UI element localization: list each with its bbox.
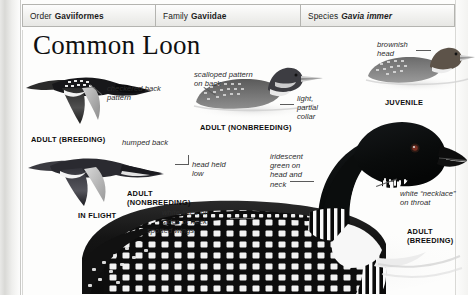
annotation-checkered-back: checkered back pattern (107, 84, 177, 102)
page-rule-left (22, 30, 23, 295)
caption-in-flight: IN FLIGHT (78, 212, 148, 221)
annotation-white-necklace: white “necklace” on throat (400, 189, 476, 207)
taxonomy-cell-species: Species Gavia immer (301, 5, 454, 26)
taxonomy-bar: Order Gaviiformes Family Gaviidae Specie… (22, 4, 455, 27)
annotation-white-lines-neck: white lines on sides of neck (162, 208, 234, 226)
taxonomy-cell-order: Order Gaviiformes (23, 5, 156, 26)
caption-juvenile: JUVENILE (385, 99, 445, 108)
caption-adult-breeding-flight: ADULT (BREEDING) (31, 136, 123, 145)
taxonomy-order-value: Gaviiformes (55, 11, 104, 21)
taxonomy-order-label: Order (30, 11, 52, 21)
taxonomy-family-label: Family (163, 11, 188, 21)
caption-adult-nonbreeding-flight: ADULT (NONBREEDING) (127, 190, 197, 208)
annotation-spotted-wings: spotted wings (147, 226, 217, 235)
caption-adult-breeding-large: ADULT (BREEDING) (407, 228, 475, 246)
annotation-light-partial-collar: light, partial collar (297, 94, 337, 122)
annotation-head-held-low: head held low (192, 160, 238, 178)
caption-adult-nonbreeding-swimming: ADULT (NONBREEDING) (200, 124, 324, 133)
annotation-humped-back: humped back (122, 138, 188, 147)
leader-head-held-low (175, 164, 188, 165)
annotation-iridescent-green: iridescent green on head and neck (270, 152, 324, 189)
taxonomy-species-value: Gavia immer (341, 11, 392, 21)
leader-light-collar (280, 104, 294, 105)
field-guide-page: Order Gaviiformes Family Gaviidae Specie… (22, 0, 468, 295)
annotation-scalloped-pattern: scalloped pattern on back (194, 70, 276, 88)
taxonomy-species-label: Species (308, 11, 338, 21)
taxonomy-cell-family: Family Gaviidae (156, 5, 301, 26)
page-title: Common Loon (33, 30, 201, 61)
leader-head-held-low-vert (188, 155, 189, 165)
annotation-brownish-head: brownish head (377, 40, 421, 58)
book-gutter-shading (0, 0, 22, 295)
gutter-rule (20, 0, 21, 295)
taxonomy-family-value: Gaviidae (191, 11, 226, 21)
